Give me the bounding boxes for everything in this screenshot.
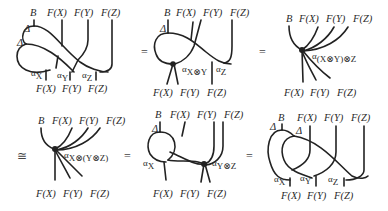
wire-FZ-bottom [205, 164, 210, 182]
label-delta-1: Δ [23, 23, 30, 34]
label-FY-top: F(Y) [73, 7, 94, 19]
label-alpha-z: αZ [328, 174, 338, 187]
label-FX-bottom: F(X) [152, 87, 173, 99]
label-FX-bottom: F(X) [283, 87, 304, 99]
panel-6: B F(X) F(Y) F(Z) Δ Δ αX αY αZ F(X) F(Y) … [268, 112, 371, 202]
label-FY-bottom: F(Y) [309, 87, 330, 99]
label-alpha-z: αZ [82, 70, 92, 83]
label-FZ-top: F(Z) [100, 7, 121, 19]
label-FY-bottom: F(Y) [179, 87, 200, 99]
wire-FY-top [175, 20, 201, 64]
label-FY-top: F(Y) [196, 109, 217, 121]
wire-join-y [72, 60, 78, 72]
label-B: B [278, 112, 285, 123]
label-delta: Δ [159, 23, 166, 34]
relation-1: = [141, 45, 148, 59]
label-alpha-xy: αX⊗Y [182, 64, 208, 77]
wire-delta-left [148, 132, 166, 162]
label-FX-bottom: F(X) [280, 190, 301, 202]
panel-2: B F(X) F(Y) F(Z) Δ αX⊗Y αZ F(X) F(Y) F(Z… [152, 7, 250, 99]
wire-B [289, 26, 302, 50]
label-delta-2: Δ [16, 37, 23, 48]
label-FY-bottom: F(Y) [61, 83, 82, 95]
label-FZ-bottom: F(Z) [333, 190, 354, 202]
label-FZ-top: F(Z) [229, 7, 250, 19]
label-FZ-bottom: F(Z) [336, 87, 357, 99]
string-diagram-figure: B F(X) F(Y) F(Z) Δ Δ αX αY αZ F(X) F(Y) … [0, 0, 388, 211]
relation-4: = [124, 149, 131, 163]
label-B: B [155, 109, 162, 120]
label-FZ-bottom: F(Z) [206, 87, 227, 99]
wire-delta-right [168, 33, 231, 64]
label-FY-top: F(Y) [325, 13, 346, 25]
label-FX-top: F(X) [46, 7, 67, 19]
wire-FZ-top [100, 20, 112, 72]
label-FZ-bottom: F(Z) [87, 83, 108, 95]
relation-5: = [246, 149, 253, 163]
wire-join-x [56, 56, 58, 68]
label-alpha-yz: αY⊗Z [212, 158, 236, 171]
label-alpha-z: αZ [216, 64, 226, 77]
label-B: B [286, 13, 293, 24]
label-FY-bottom: F(Y) [179, 188, 200, 200]
panel-4: B F(X) F(Y) F(Z) αX⊗(Y⊗Z) F(X) F(Y) F(Z) [35, 115, 126, 200]
label-alpha-xy-z: α(X⊗Y)⊗Z [312, 51, 356, 64]
label-delta-2: Δ [295, 125, 302, 136]
wire-delta-left [155, 33, 174, 64]
label-alpha-x: αX [31, 68, 43, 81]
wire-delta1-right [282, 130, 294, 136]
wire-delta1-left [268, 130, 290, 180]
label-alpha-y: αY [300, 173, 312, 186]
wire-FY-top [303, 27, 334, 51]
wire-FZ-top [224, 20, 232, 63]
label-FZ-top: F(Z) [352, 13, 373, 25]
wire-FX-top [182, 122, 185, 136]
diagram-canvas: B F(X) F(Y) F(Z) Δ Δ αX αY αZ F(X) F(Y) … [0, 0, 388, 211]
label-delta-1: Δ [269, 121, 276, 132]
wire-delta-loop-right [160, 132, 175, 160]
label-FZ-top: F(Z) [223, 109, 244, 121]
label-FX-top: F(X) [175, 7, 196, 19]
label-alpha-y: αY [57, 70, 69, 83]
wire-FY-top [78, 20, 88, 60]
label-FZ-top: F(Z) [350, 112, 371, 124]
label-delta: Δ [151, 123, 158, 134]
label-FY-top: F(Y) [323, 112, 344, 124]
label-FY-bottom: F(Y) [62, 188, 83, 200]
label-FX-top: F(X) [296, 112, 317, 124]
panel-1: B F(X) F(Y) F(Z) Δ Δ αX αY αZ F(X) F(Y) … [16, 7, 121, 95]
label-B: B [30, 7, 37, 18]
label-B: B [38, 115, 45, 126]
label-FZ-bottom: F(Z) [206, 188, 227, 200]
label-B: B [164, 7, 171, 18]
label-FY-top: F(Y) [202, 7, 223, 19]
wire-B [41, 128, 54, 149]
panel-5: B F(X) F(Y) F(Z) Δ αX αY⊗Z F(X) F(Y) F(Z… [143, 109, 244, 200]
label-FX-bottom: F(X) [35, 188, 56, 200]
label-FZ-top: F(Z) [105, 115, 126, 127]
label-FX-top: F(X) [169, 109, 190, 121]
relation-3: ≅ [17, 149, 27, 163]
wire-FX-bottom [164, 162, 166, 180]
label-FY-bottom: F(Y) [306, 190, 327, 202]
wire-FX-top [191, 22, 193, 40]
label-FY-top: F(Y) [78, 115, 99, 127]
wire-FY-bottom [201, 164, 204, 182]
label-FX-top: F(X) [51, 115, 72, 127]
wire-FY-top [56, 128, 88, 150]
label-FX-top: F(X) [298, 13, 319, 25]
label-alpha-x: αX [274, 174, 286, 187]
label-alpha-x: αX [143, 158, 155, 171]
panel-3: B F(X) F(Y) F(Z) α(X⊗Y)⊗Z F(X) F(Y) F(Z) [283, 13, 373, 99]
relation-2: = [259, 45, 266, 59]
label-alpha-x-yz: αX⊗(Y⊗Z) [64, 150, 108, 163]
label-FX-bottom: F(X) [35, 83, 56, 95]
label-FX-bottom: F(X) [152, 188, 173, 200]
label-FZ-bottom: F(Z) [89, 188, 110, 200]
wire-FY-bottom [174, 64, 178, 84]
wire-FX-bottom [167, 64, 173, 84]
